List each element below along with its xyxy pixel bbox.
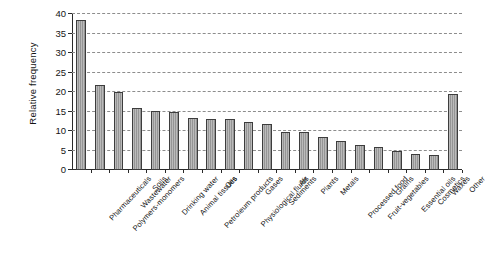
bar — [151, 111, 161, 170]
bar — [95, 85, 105, 170]
y-tick-label: 15 — [55, 107, 66, 117]
x-tick-label: Oils — [224, 175, 239, 190]
bar — [281, 132, 291, 170]
bar — [76, 20, 86, 170]
y-tick-label: 10 — [55, 126, 66, 136]
bar — [411, 154, 421, 170]
y-tick-label: 0 — [61, 165, 66, 175]
y-tick-label: 35 — [55, 29, 66, 39]
bar — [429, 155, 439, 170]
x-tick-label-wrap: Metals — [340, 172, 361, 194]
bar — [262, 124, 272, 170]
bar — [392, 151, 402, 170]
bar-series — [72, 14, 462, 170]
y-tick-label: 5 — [61, 146, 66, 156]
bar — [114, 92, 124, 170]
y-tick-label: 30 — [55, 48, 66, 58]
x-axis-labels: PharmaceuticalsPolymers-monomersWastewat… — [72, 172, 472, 258]
bar — [448, 94, 458, 170]
bar — [244, 122, 254, 170]
x-tick-label-wrap: Other — [469, 172, 488, 191]
bar — [169, 112, 179, 170]
bar — [132, 108, 142, 170]
y-tick-label: 25 — [55, 68, 66, 78]
x-tick-label-wrap: Oils — [226, 172, 241, 187]
x-tick-label: Metals — [339, 175, 360, 197]
bar — [355, 145, 365, 170]
bar — [374, 147, 384, 170]
bar — [225, 119, 235, 170]
y-tick-label: 40 — [55, 9, 66, 19]
bar — [299, 132, 309, 170]
bar — [188, 118, 198, 170]
bar — [318, 137, 328, 170]
x-tick-label: Plants — [320, 175, 340, 196]
bar — [336, 141, 346, 170]
y-tick-label: 20 — [55, 87, 66, 97]
y-axis-title: Relative frequency — [27, 4, 38, 164]
plot-area: 0510152025303540 — [72, 14, 462, 170]
bar — [206, 119, 216, 170]
